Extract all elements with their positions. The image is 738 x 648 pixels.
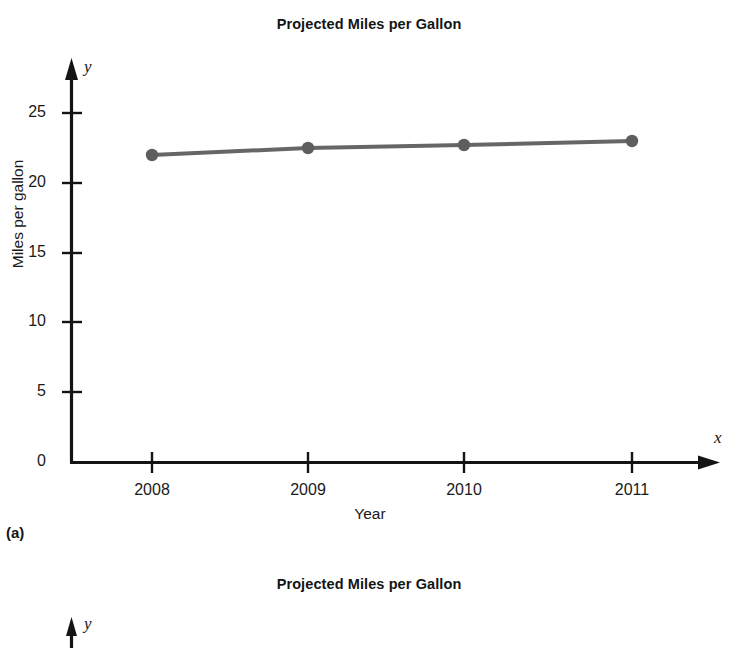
chart-plot-area <box>0 0 738 560</box>
x-axis-variable-label: x <box>714 428 722 448</box>
x-tick-label-2011: 2011 <box>592 481 672 499</box>
x-tick-label-2009: 2009 <box>268 481 348 499</box>
y-tick-label-5: 5 <box>2 382 46 400</box>
x-tick-label-2008: 2008 <box>112 481 192 499</box>
y-axis <box>65 58 78 462</box>
x-axis <box>70 456 720 470</box>
chart-plot-area-b <box>0 560 738 648</box>
x-axis-title: Year <box>300 505 440 523</box>
chart-panel-a: Projected Miles per Gallon <box>0 0 738 560</box>
y-axis-b <box>66 617 77 648</box>
y-tick-label-10: 10 <box>2 312 46 330</box>
data-series-projected-mpg <box>146 135 638 161</box>
y-axis-title: Miles per gallon <box>9 144 27 284</box>
y-axis-variable-label: y <box>84 57 92 77</box>
y-tick-label-0: 0 <box>2 452 46 470</box>
data-point <box>458 139 470 151</box>
data-point <box>146 149 158 161</box>
y-tick-label-25: 25 <box>2 103 46 121</box>
chart-panel-b-partial: Projected Miles per Gallon y <box>0 560 738 648</box>
data-point <box>626 135 638 147</box>
y-axis-variable-label-b: y <box>84 614 92 634</box>
data-point <box>302 142 314 154</box>
panel-label-a: (a) <box>6 524 24 541</box>
x-tick-label-2010: 2010 <box>424 481 504 499</box>
